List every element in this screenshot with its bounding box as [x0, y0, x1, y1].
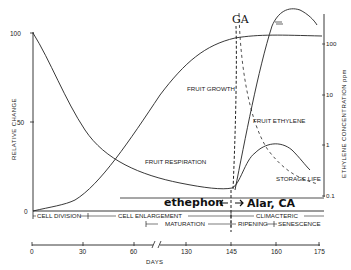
ethephon-label: ethephon — [164, 196, 223, 209]
x-tick-160: 160 — [271, 248, 282, 255]
fruit-growth-label: FRUIT GROWTH — [187, 85, 235, 92]
x-tick-0: 0 — [30, 248, 34, 255]
storage-life-curve — [239, 13, 318, 184]
y-tick-0: 0 — [24, 208, 28, 215]
stage-cell-enlargement: CELL ENLARGEMENT — [118, 212, 182, 219]
x-axis-label: DAYS — [146, 259, 164, 265]
y-tick-50: 50 — [17, 119, 25, 126]
fruit-development-chart: 100 50 0 RELATIVE CHANGE CELL DIVISION C… — [0, 0, 351, 270]
x-tick-175: 175 — [314, 248, 325, 255]
fruit-respiration-curve — [33, 33, 310, 189]
ga-label: GA — [232, 13, 250, 26]
x-tick-130: 130 — [181, 248, 192, 255]
ga-curve — [233, 26, 236, 190]
stage-climacteric: CLIMACTERIC — [256, 212, 298, 219]
yr-tick-1: 1 — [326, 141, 330, 148]
stage-cell-division: CELL DIVISION — [37, 212, 81, 219]
storage-life-label: STORAGE LIFE — [276, 175, 321, 182]
alar-label: Alar, CA — [247, 197, 296, 210]
fruit-respiration-label: FRUIT RESPIRATION — [145, 158, 206, 165]
yr-tick-10: 10 — [326, 91, 333, 98]
y-axis-label: RELATIVE CHANGE — [11, 98, 17, 160]
y-tick-100: 100 — [10, 30, 21, 37]
yr-tick-100: 100 — [326, 40, 337, 47]
stage-maturation: MATURATION — [165, 220, 205, 227]
yr-tick-0.1: 0.1 — [326, 192, 335, 199]
y-right-axis-label: ETHYLENE CONCENTRATION ppm — [341, 69, 347, 178]
stage-ripening: RIPENING — [238, 220, 268, 227]
x-tick-145: 145 — [226, 248, 237, 255]
x-tick-60: 60 — [130, 248, 138, 255]
fruit-ethylene-label: FRUIT ETHYLENE — [253, 117, 306, 124]
stage-senescence: SENESCENCE — [278, 220, 321, 227]
x-tick-30: 30 — [79, 248, 87, 255]
